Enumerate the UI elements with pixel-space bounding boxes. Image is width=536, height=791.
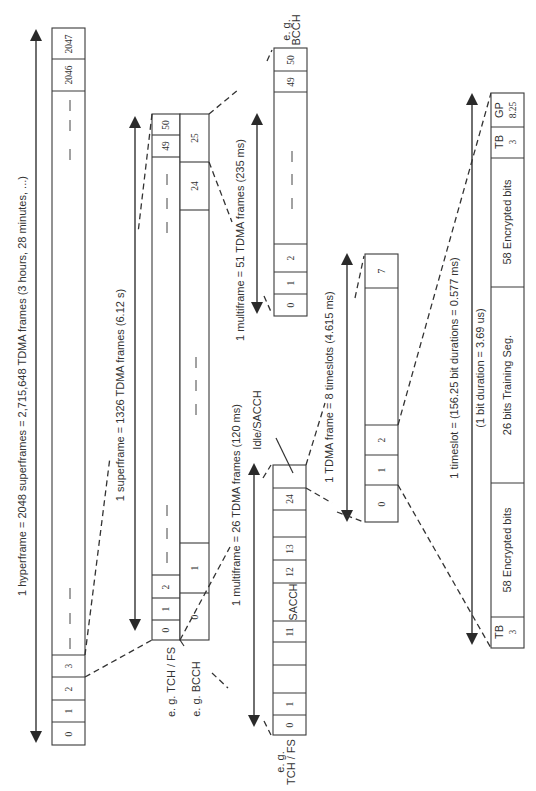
superframe-right-column xyxy=(180,114,209,640)
burst-encrypted-bits-2: 58 Encrypted bits xyxy=(501,179,513,264)
hyperframe-cell-2047: 2047 xyxy=(64,34,74,53)
tdma-timeslot-1: 1 xyxy=(377,467,387,472)
hyperframe-cell-0: 0 xyxy=(64,731,74,736)
superframe-label: 1 superframe = 1326 TDMA frames (6.12 s) xyxy=(114,289,126,501)
multiframe26-group: 1 multiframe = 26 TDMA frames (120 ms) 0… xyxy=(230,390,306,785)
hyperframe-cell-2046: 2046 xyxy=(64,65,74,84)
superframe-left-cell-0: 0 xyxy=(161,627,171,632)
arrow-down-icon xyxy=(30,731,42,743)
superframe-right-cell-25: 25 xyxy=(190,133,200,143)
multiframe51-cell-50: 50 xyxy=(286,55,296,65)
multiframe51-box xyxy=(274,48,307,316)
multiframe26-cell-0: 0 xyxy=(285,722,295,727)
hyperframe-cell-2: 2 xyxy=(64,686,74,691)
multiframe26-sacch-label: SACCH xyxy=(287,584,299,621)
expand-line xyxy=(85,457,110,655)
multiframe26-cell-12: 12 xyxy=(285,567,295,577)
superframe-right-note: e. g. BCCH xyxy=(190,661,202,717)
multiframe51-cell-2: 2 xyxy=(286,255,296,260)
arrow-up-icon xyxy=(341,253,353,265)
burst-guard-period-name: GP xyxy=(493,102,505,118)
hyperframe-cell-3: 3 xyxy=(64,663,74,668)
burst-encrypted-bits-1: 58 Encrypted bits xyxy=(501,507,513,592)
hyperframe-cell-1: 1 xyxy=(64,708,74,713)
tdma-timeslot-0: 0 xyxy=(377,501,387,506)
burst-tail-bits-end-count: 3 xyxy=(508,139,518,144)
bit-duration-label: (1 bit duration = 3.69 us) xyxy=(474,308,486,428)
burst-tail-bits-end-name: TB xyxy=(493,135,505,149)
superframe-right-cell-24: 24 xyxy=(190,181,200,191)
arrow-up-icon xyxy=(466,93,478,105)
arrow-up-icon xyxy=(251,113,263,125)
burst-tail-bits-start-name: TB xyxy=(493,625,505,639)
burst-training-sequence: 26 bits Training Seg. xyxy=(501,335,513,435)
multiframe26-cell-1: 1 xyxy=(285,701,295,706)
idle-sacch-label: Idle/SACCH xyxy=(251,390,263,449)
arrow-down-icon xyxy=(251,302,263,314)
gsm-frame-hierarchy-diagram: 1 hyperframe = 2048 superframes = 2,715,… xyxy=(0,0,536,791)
burst-tail-bits-start-count: 3 xyxy=(508,629,518,634)
multiframe51-cell-49: 49 xyxy=(286,77,296,87)
superframe-left-cell-2: 2 xyxy=(161,584,171,589)
hyperframe-group: 1 hyperframe = 2048 superframes = 2,715,… xyxy=(16,28,85,745)
arrow-down-icon xyxy=(129,619,141,631)
multiframe26-cell-11: 11 xyxy=(285,627,295,636)
superframe-left-note: e. g. TCH / FS xyxy=(165,647,177,717)
multiframe51-cell-0: 0 xyxy=(286,302,296,307)
superframe-left-column xyxy=(152,114,180,640)
multiframe51-cell-1: 1 xyxy=(286,280,296,285)
tdma-timeslot-2: 2 xyxy=(377,437,387,442)
hyperframe-box xyxy=(52,28,85,745)
superframe-left-cell-49: 49 xyxy=(161,141,171,151)
multiframe26-label: 1 multiframe = 26 TDMA frames (120 ms) xyxy=(230,404,242,606)
multiframe26-note-line2: TCH / FS xyxy=(285,739,297,785)
arrow-down-icon xyxy=(248,715,260,727)
hyperframe-label: 1 hyperframe = 2048 superframes = 2,715,… xyxy=(16,176,28,596)
tdma-frame-box xyxy=(365,254,398,522)
superframe-group: 1 superframe = 1326 TDMA frames (6.12 s)… xyxy=(114,114,209,717)
arrow-up-icon xyxy=(248,463,260,475)
superframe-right-cell-1: 1 xyxy=(190,565,200,570)
multiframe51-group: 1 multiframe = 51 TDMA frames (235 ms) 0… xyxy=(234,14,307,341)
burst-guard-period-count: 8.25 xyxy=(508,101,518,118)
timeslot-group: 1 timeslot = (156.25 bit durations = 0.5… xyxy=(448,93,524,648)
arrow-down-icon xyxy=(466,633,478,645)
multiframe26-cell-13: 13 xyxy=(285,544,295,554)
tdma-timeslot-7: 7 xyxy=(377,268,387,273)
multiframe51-label: 1 multiframe = 51 TDMA frames (235 ms) xyxy=(234,139,246,341)
timeslot-label: 1 timeslot = (156.25 bit durations = 0.5… xyxy=(448,257,460,478)
multiframe26-cell-24: 24 xyxy=(285,494,295,504)
arrow-up-icon xyxy=(129,116,141,128)
superframe-left-cell-50: 50 xyxy=(161,120,171,130)
tdma-frame-group: 1 TDMA frame = 8 timeslots (4.615 ms) 0 … xyxy=(323,253,398,522)
tdma-frame-label: 1 TDMA frame = 8 timeslots (4.615 ms) xyxy=(323,291,335,482)
arrow-up-icon xyxy=(30,29,42,41)
multiframe51-note-line2: BCCH xyxy=(290,14,302,45)
superframe-left-cell-1: 1 xyxy=(161,606,171,611)
